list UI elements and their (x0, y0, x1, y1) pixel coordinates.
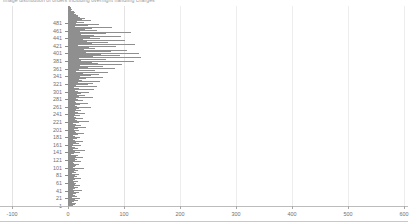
y-tick-161 (65, 145, 68, 146)
bar (68, 57, 141, 58)
y-tick-label-161: 161 (53, 142, 62, 148)
y-tick-241 (65, 114, 68, 115)
y-tick-label-301: 301 (53, 89, 62, 95)
y-tick-261 (65, 107, 68, 108)
bar (68, 32, 131, 33)
y-tick-101 (65, 168, 68, 169)
y-tick-label-441: 441 (53, 35, 62, 41)
y-tick-81 (65, 175, 68, 176)
y-tick-label-281: 281 (53, 96, 62, 102)
y-tick-321 (65, 84, 68, 85)
y-tick-201 (65, 130, 68, 131)
x-tick-600 (404, 206, 405, 209)
x-tick-500 (348, 206, 349, 209)
x-axis-line (0, 206, 408, 207)
bar (68, 42, 108, 43)
y-tick-61 (65, 183, 68, 184)
y-tick-label-261: 261 (53, 104, 62, 110)
bar (68, 72, 108, 73)
y-tick-label-421: 421 (53, 43, 62, 49)
bar-series (68, 6, 408, 206)
y-tick-label-21: 21 (56, 195, 62, 201)
y-tick-41 (65, 191, 68, 192)
y-tick-label-181: 181 (53, 134, 62, 140)
bar (68, 77, 103, 78)
y-tick-401 (65, 53, 68, 54)
x-tick--100 (12, 206, 13, 209)
bar (68, 6, 70, 7)
y-tick-label-381: 381 (53, 58, 62, 64)
chart-title: Image distribution of orders including o… (3, 0, 155, 3)
y-tick-label-481: 481 (53, 20, 62, 26)
y-tick-label-201: 201 (53, 127, 62, 133)
x-tick-label-200: 200 (176, 211, 185, 217)
bar (68, 55, 120, 56)
y-tick-label-461: 461 (53, 28, 62, 34)
y-tick-21 (65, 198, 68, 199)
footer-divider (0, 221, 408, 222)
y-tick-label-321: 321 (53, 81, 62, 87)
y-tick-141 (65, 152, 68, 153)
x-tick-label-500: 500 (344, 211, 353, 217)
y-tick-label-401: 401 (53, 50, 62, 56)
y-tick-label-241: 241 (53, 111, 62, 117)
x-tick-label-0: 0 (67, 211, 70, 217)
x-tick-200 (180, 206, 181, 209)
y-tick-281 (65, 99, 68, 100)
bar (68, 66, 103, 67)
bar (68, 83, 93, 84)
x-tick-300 (236, 206, 237, 209)
bar (68, 40, 125, 41)
y-tick-label-341: 341 (53, 73, 62, 79)
x-tick-0 (68, 206, 69, 209)
x-tick-100 (124, 206, 125, 209)
bar (68, 64, 122, 65)
y-tick-121 (65, 160, 68, 161)
y-tick-461 (65, 31, 68, 32)
bar (68, 44, 135, 45)
y-tick-label-61: 61 (56, 180, 62, 186)
y-tick-441 (65, 38, 68, 39)
y-tick-381 (65, 61, 68, 62)
y-tick-label-221: 221 (53, 119, 62, 125)
y-tick-label-101: 101 (53, 165, 62, 171)
x-tick-label--100: -100 (7, 211, 18, 217)
y-tick-421 (65, 46, 68, 47)
x-tick-label-300: 300 (232, 211, 241, 217)
x-tick-400 (292, 206, 293, 209)
y-tick-301 (65, 92, 68, 93)
y-tick-label-41: 41 (56, 188, 62, 194)
y-axis-labels: 1214161811011211411611812012212412612813… (0, 6, 66, 206)
x-tick-label-600: 600 (400, 211, 409, 217)
bar (68, 81, 100, 82)
y-tick-label-81: 81 (56, 172, 62, 178)
x-tick-label-100: 100 (120, 211, 129, 217)
x-tick-label-400: 400 (288, 211, 297, 217)
y-tick-label-121: 121 (53, 157, 62, 163)
bar (68, 68, 115, 69)
y-tick-label-361: 361 (53, 66, 62, 72)
y-tick-221 (65, 122, 68, 123)
y-tick-181 (65, 137, 68, 138)
bar (68, 53, 139, 54)
y-tick-label-141: 141 (53, 149, 62, 155)
bar (68, 61, 134, 62)
y-tick-481 (65, 23, 68, 24)
y-tick-361 (65, 69, 68, 70)
y-tick-341 (65, 76, 68, 77)
